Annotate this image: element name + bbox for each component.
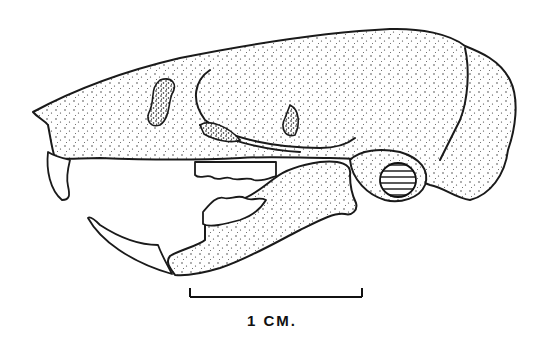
auditory-meatus [380, 163, 416, 197]
lower-incisor [88, 217, 172, 274]
upper-molars [195, 162, 276, 181]
upper-incisor [48, 152, 70, 200]
skull-drawing [0, 0, 544, 346]
skull-illustration: 1 CM. [0, 0, 544, 346]
scale-bar [190, 288, 362, 297]
scale-bar-label: 1 CM. [0, 312, 544, 329]
